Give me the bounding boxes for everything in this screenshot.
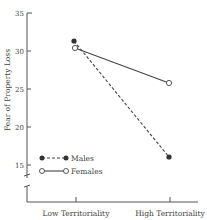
ytick-35: 35 [15,10,24,18]
male-low-marker [71,38,76,43]
female-high-marker [166,80,171,85]
legend-males: Males [71,154,94,163]
ytick-30: 30 [15,48,24,56]
series-females [72,45,171,85]
series-males [71,38,171,159]
legend: Males Females [40,154,103,176]
female-low-marker [72,45,77,50]
y-axis-label: Fear of Property Loss [3,49,12,131]
xtick-label-high: High Territoriality [135,209,205,218]
xtick-label-low: Low Territoriality [43,209,111,218]
ytick-15: 15 [15,162,24,170]
male-high-marker [166,154,171,159]
legend-females: Females [71,167,103,176]
chart: 35 30 25 20 15 Fear of Property Loss Low… [0,0,207,220]
y-ticks: 35 30 25 20 15 [15,10,32,170]
ytick-20: 20 [15,124,24,132]
ytick-25: 25 [15,86,24,94]
